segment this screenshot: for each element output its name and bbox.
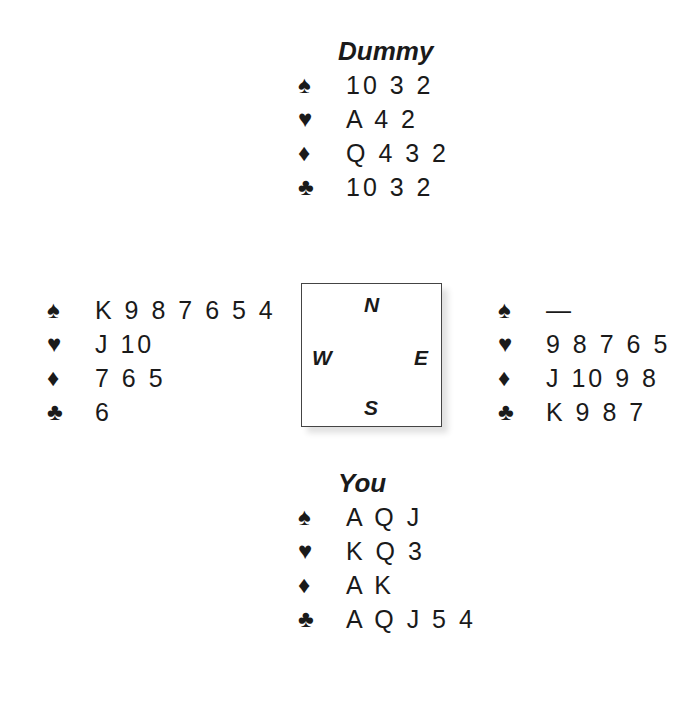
east-spades-row: ♠ — xyxy=(498,293,670,327)
north-clubs-row: ♣ 10 3 2 xyxy=(298,170,449,204)
compass-east: E xyxy=(414,346,428,370)
north-clubs: 10 3 2 xyxy=(346,170,434,204)
spade-icon: ♠ xyxy=(298,500,326,534)
north-hearts: A 4 2 xyxy=(346,102,418,136)
north-hearts-row: ♥ A 4 2 xyxy=(298,102,449,136)
south-diamonds: A K xyxy=(346,568,394,602)
club-icon: ♣ xyxy=(298,602,326,636)
diamond-icon: ♦ xyxy=(298,568,326,602)
south-hearts: K Q 3 xyxy=(346,534,425,568)
east-spades: — xyxy=(546,293,574,327)
club-icon: ♣ xyxy=(47,395,75,429)
east-hand: ♠ — ♥ 9 8 7 6 5 ♦ J 10 9 8 ♣ K 9 8 7 xyxy=(498,293,670,429)
club-icon: ♣ xyxy=(498,395,526,429)
diamond-icon: ♦ xyxy=(498,361,526,395)
heart-icon: ♥ xyxy=(47,327,75,361)
south-spades: A Q J xyxy=(346,500,422,534)
south-spades-row: ♠ A Q J xyxy=(298,500,476,534)
heart-icon: ♥ xyxy=(498,327,526,361)
west-hearts: J 10 xyxy=(95,327,154,361)
east-diamonds: J 10 9 8 xyxy=(546,361,659,395)
west-hearts-row: ♥ J 10 xyxy=(47,327,276,361)
south-hearts-row: ♥ K Q 3 xyxy=(298,534,476,568)
south-diamonds-row: ♦ A K xyxy=(298,568,476,602)
west-diamonds-row: ♦ 7 6 5 xyxy=(47,361,276,395)
west-clubs-row: ♣ 6 xyxy=(47,395,276,429)
south-clubs: A Q J 5 4 xyxy=(346,602,476,636)
east-clubs-row: ♣ K 9 8 7 xyxy=(498,395,670,429)
you-label: You xyxy=(338,468,476,498)
west-clubs: 6 xyxy=(95,395,112,429)
north-hand: Dummy ♠ 10 3 2 ♥ A 4 2 ♦ Q 4 3 2 ♣ 10 3 … xyxy=(298,36,449,204)
west-hand: ♠ K 9 8 7 6 5 4 ♥ J 10 ♦ 7 6 5 ♣ 6 xyxy=(47,293,276,429)
east-hearts: 9 8 7 6 5 xyxy=(546,327,670,361)
heart-icon: ♥ xyxy=(298,102,326,136)
north-spades-row: ♠ 10 3 2 xyxy=(298,68,449,102)
spade-icon: ♠ xyxy=(298,68,326,102)
north-diamonds-row: ♦ Q 4 3 2 xyxy=(298,136,449,170)
west-spades: K 9 8 7 6 5 4 xyxy=(95,293,276,327)
diamond-icon: ♦ xyxy=(298,136,326,170)
south-clubs-row: ♣ A Q J 5 4 xyxy=(298,602,476,636)
spade-icon: ♠ xyxy=(47,293,75,327)
compass-west: W xyxy=(312,346,332,370)
east-hearts-row: ♥ 9 8 7 6 5 xyxy=(498,327,670,361)
compass-north: N xyxy=(364,293,379,317)
west-diamonds: 7 6 5 xyxy=(95,361,166,395)
north-spades: 10 3 2 xyxy=(346,68,434,102)
east-diamonds-row: ♦ J 10 9 8 xyxy=(498,361,670,395)
heart-icon: ♥ xyxy=(298,534,326,568)
diamond-icon: ♦ xyxy=(47,361,75,395)
east-clubs: K 9 8 7 xyxy=(546,395,646,429)
club-icon: ♣ xyxy=(298,170,326,204)
south-hand: You ♠ A Q J ♥ K Q 3 ♦ A K ♣ A Q J 5 4 xyxy=(298,468,476,636)
west-spades-row: ♠ K 9 8 7 6 5 4 xyxy=(47,293,276,327)
dummy-label: Dummy xyxy=(338,36,449,66)
north-diamonds: Q 4 3 2 xyxy=(346,136,449,170)
spade-icon: ♠ xyxy=(498,293,526,327)
compass-box: N W E S xyxy=(301,283,442,427)
compass-south: S xyxy=(364,396,378,420)
